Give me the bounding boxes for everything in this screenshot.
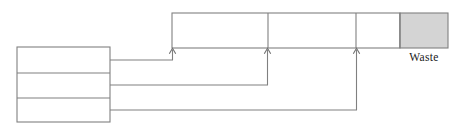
diagram-canvas: Waste [0,0,462,138]
process-bar-body [172,13,400,48]
connection-1 [110,48,176,60]
connection-2 [110,48,271,85]
diagram-svg [0,0,462,138]
source-stack [17,47,110,122]
source-stack-body [17,47,110,122]
waste-cell [400,13,448,48]
process-bar [172,13,448,48]
waste-label: Waste [400,51,448,63]
connection-3 [110,48,360,110]
